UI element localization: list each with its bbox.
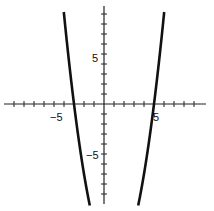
chart-area: −5 5 5 −5 (0, 0, 214, 211)
parabola-plot: −5 5 5 −5 (0, 0, 214, 211)
parabola-curve (64, 12, 164, 205)
y-tick-label-5: 5 (92, 52, 98, 64)
x-tick-label-neg5: −5 (50, 111, 63, 123)
axes (4, 6, 206, 204)
x-tick-label-5: 5 (153, 111, 159, 123)
y-tick-label-neg5: −5 (86, 149, 99, 161)
